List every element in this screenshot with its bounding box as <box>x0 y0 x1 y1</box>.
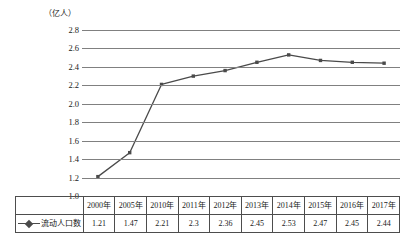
table-value-cell: 2.53 <box>273 215 305 233</box>
table-header-cell: 2016年 <box>336 197 368 215</box>
gridline <box>82 178 400 179</box>
table-header-cell: 2017年 <box>368 197 400 215</box>
table-value-cell: 2.21 <box>146 215 178 233</box>
gridline <box>82 67 400 68</box>
gridline <box>82 30 400 31</box>
table-header-cell: 2000年 <box>83 197 115 215</box>
plot-area <box>82 30 400 196</box>
data-point-marker <box>128 151 131 154</box>
gridline <box>82 85 400 86</box>
table-header-row: 2000年2005年2010年2011年2012年2013年2014年2015年… <box>16 197 400 215</box>
legend-label: 流动人口数 <box>41 219 83 228</box>
y-axis-tick-label: 1.6 <box>68 136 79 145</box>
data-point-marker <box>223 69 226 72</box>
legend-spacer-cell <box>16 197 84 215</box>
table-value-cell: 2.3 <box>178 215 210 233</box>
gridline <box>82 48 400 49</box>
data-point-marker <box>255 61 258 64</box>
legend-line-marker-icon <box>18 219 40 228</box>
table-value-cell: 2.45 <box>241 215 273 233</box>
y-axis-unit-label: （亿人） <box>44 9 76 19</box>
data-point-marker <box>192 74 195 77</box>
y-axis-tick-labels: 2.82.62.42.22.01.81.61.41.21.0 <box>52 30 79 196</box>
table-value-cell: 2.47 <box>305 215 337 233</box>
table-value-cell: 2.44 <box>368 215 400 233</box>
data-point-marker <box>382 62 385 65</box>
data-point-marker <box>287 53 290 56</box>
table-value-cell: 2.45 <box>336 215 368 233</box>
gridline <box>82 122 400 123</box>
table-value-cell: 2.36 <box>210 215 242 233</box>
y-axis-tick-label: 1.4 <box>68 155 79 164</box>
table-header-cell: 2013年 <box>241 197 273 215</box>
gridline <box>82 141 400 142</box>
y-axis-tick-label: 2.0 <box>68 99 79 108</box>
table-value-cell: 1.21 <box>83 215 115 233</box>
y-axis-tick-label: 2.8 <box>68 26 79 35</box>
table-header-cell: 2014年 <box>273 197 305 215</box>
gridline <box>82 159 400 160</box>
table-header-cell: 2005年 <box>115 197 147 215</box>
y-axis-tick-label: 2.6 <box>68 44 79 53</box>
data-point-marker <box>319 59 322 62</box>
table-header-cell: 2010年 <box>146 197 178 215</box>
legend-cell: 流动人口数 <box>16 215 84 233</box>
y-axis-tick-label: 2.4 <box>68 62 79 71</box>
table-value-row: 流动人口数 1.211.472.212.32.362.452.532.472.4… <box>16 215 400 233</box>
table-value-cell: 1.47 <box>115 215 147 233</box>
y-axis-tick-label: 1.8 <box>68 118 79 127</box>
series-line-flowing-population <box>82 30 400 196</box>
gridline <box>82 104 400 105</box>
data-table: 2000年2005年2010年2011年2012年2013年2014年2015年… <box>15 196 400 233</box>
table-header-cell: 2011年 <box>178 197 210 215</box>
data-point-marker <box>351 61 354 64</box>
table-header-cell: 2012年 <box>210 197 242 215</box>
table-header-cell: 2015年 <box>305 197 337 215</box>
line-chart-figure: （亿人） 2.82.62.42.22.01.81.61.41.21.0 2000… <box>0 0 413 245</box>
y-axis-tick-label: 2.2 <box>68 81 79 90</box>
y-axis-tick-label: 1.2 <box>68 173 79 182</box>
